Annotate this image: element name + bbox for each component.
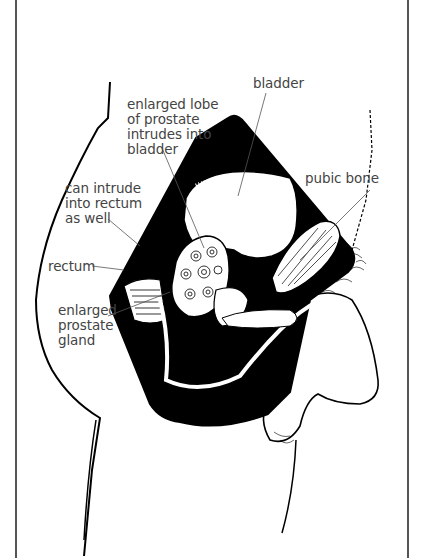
label-intrude-rectum: can intrude into rectum as well: [65, 181, 142, 226]
leg-front-outline: [282, 440, 296, 533]
label-bladder: bladder: [253, 76, 304, 91]
label-rectum: rectum: [48, 259, 95, 274]
label-pubic-bone: pubic bone: [305, 171, 379, 186]
label-enlarged-lobe: enlarged lobe of prostate intrudes into …: [127, 97, 219, 157]
thigh-outline: [84, 420, 96, 540]
label-enlarged-gland: enlarged prostate gland: [58, 303, 117, 348]
leader-rectum: [92, 266, 124, 270]
